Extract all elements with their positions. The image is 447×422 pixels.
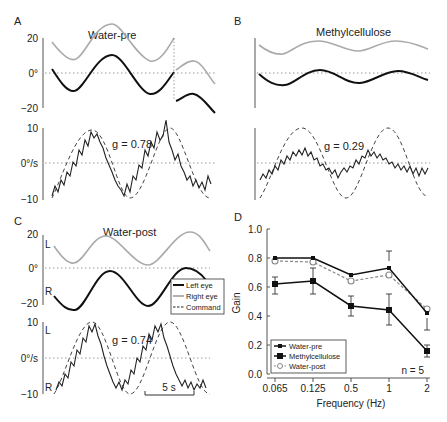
gain-label-b: g = 0.29 bbox=[324, 140, 364, 152]
tick-0dps: 0°/s bbox=[21, 158, 38, 169]
panel-letter-a: A bbox=[14, 15, 22, 27]
panel-d: D 1.0 0.8 0.6 0.4 0.2 0.0 0.065 0.125 0.… bbox=[231, 211, 430, 409]
x-tick: 2 bbox=[424, 383, 430, 394]
legend-label-water-post: Water-post bbox=[289, 362, 326, 371]
x-tick: 0.065 bbox=[262, 383, 287, 394]
panel-b: B Methylcellulose g = 0.29 bbox=[234, 15, 430, 200]
right-eye-trace-post bbox=[176, 61, 215, 84]
y-tick: 0.8 bbox=[248, 253, 262, 264]
legend-label-right-eye: Right eye bbox=[186, 292, 218, 301]
tick-minus10: −10 bbox=[21, 389, 38, 400]
right-label: R bbox=[45, 286, 52, 297]
left-eye-trace bbox=[259, 70, 428, 85]
legend-d: Water-pre Methylcellulose Water-post bbox=[271, 340, 346, 373]
tick-minus10: −10 bbox=[21, 194, 38, 205]
eye-velocity-trace bbox=[52, 120, 211, 196]
x-axis-label: Frequency (Hz) bbox=[317, 398, 386, 409]
eye-velocity-trace bbox=[260, 148, 428, 180]
legend-label-water-pre: Water-pre bbox=[289, 342, 322, 351]
legend-label-left-eye: Left eye bbox=[186, 281, 213, 290]
x-ticks: 0.065 0.125 0.5 1 2 bbox=[262, 383, 430, 394]
panel-a: A Water-pre 20 0° −20 10 0°/s −10 g = 0.… bbox=[14, 15, 215, 205]
y-tick: 0.2 bbox=[248, 340, 262, 351]
y-tick: 0.4 bbox=[248, 311, 262, 322]
figure: A Water-pre 20 0° −20 10 0°/s −10 g = 0.… bbox=[0, 0, 447, 422]
y-axis-label: Gain bbox=[231, 292, 242, 313]
left-label: L bbox=[45, 325, 51, 336]
tick-20: 20 bbox=[27, 229, 39, 240]
left-label: L bbox=[45, 239, 51, 250]
legend-marker-methylcellulose bbox=[277, 353, 283, 359]
panel-title-b: Methylcellulose bbox=[316, 26, 391, 38]
x-tick: 1 bbox=[386, 383, 392, 394]
legend-label-command: Command bbox=[186, 303, 221, 312]
panel-letter-d: D bbox=[234, 211, 242, 223]
x-tick: 0.5 bbox=[344, 383, 358, 394]
tick-minus20: −20 bbox=[21, 298, 38, 309]
tick-minus20: −20 bbox=[21, 103, 38, 114]
tick-10: 10 bbox=[27, 317, 39, 328]
tick-10: 10 bbox=[27, 123, 39, 134]
left-eye-trace-post bbox=[176, 94, 215, 113]
panel-c: C Water-post 20 0° −20 L R Left eye Righ… bbox=[14, 215, 224, 400]
legend-marker-water-pre bbox=[278, 344, 282, 348]
tick-0dps: 0°/s bbox=[21, 353, 38, 364]
y-tick: 0.0 bbox=[248, 369, 262, 380]
panel-letter-c: C bbox=[14, 215, 22, 227]
y-ticks: 1.0 0.8 0.6 0.4 0.2 0.0 bbox=[248, 224, 262, 380]
tick-0deg: 0° bbox=[28, 68, 38, 79]
panel-letter-b: B bbox=[234, 15, 241, 27]
n-annotation: n = 5 bbox=[401, 365, 424, 376]
tick-0deg: 0° bbox=[28, 263, 38, 274]
panel-title-c: Water-post bbox=[103, 226, 156, 238]
y-tick: 1.0 bbox=[248, 224, 262, 235]
tick-20: 20 bbox=[27, 33, 39, 44]
scalebar-label: 5 s bbox=[162, 382, 175, 393]
legend-marker-water-post bbox=[278, 364, 283, 369]
right-eye-trace bbox=[259, 41, 428, 54]
legend-c: Left eye Right eye Command bbox=[171, 279, 224, 314]
y-tick: 0.6 bbox=[248, 282, 262, 293]
gain-label-a: g = 0.78 bbox=[112, 138, 152, 150]
legend-label-methylcellulose: Methylcellulose bbox=[289, 352, 340, 361]
x-tick: 0.125 bbox=[300, 383, 325, 394]
right-label: R bbox=[45, 382, 52, 393]
gain-label-c: g = 0.74 bbox=[112, 334, 152, 346]
